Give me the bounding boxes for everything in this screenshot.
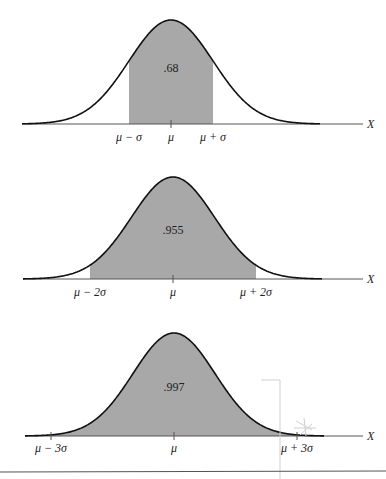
tick-label: μ + 3σ	[280, 441, 314, 455]
x-axis-label: X	[366, 272, 375, 286]
probability-label: .997	[164, 380, 185, 394]
normal-curve-chart-2: Xμ − 2σμμ + 2σ.955	[23, 177, 375, 299]
x-axis-label: X	[366, 117, 375, 131]
probability-label: .955	[163, 223, 184, 237]
x-axis-label: X	[366, 429, 375, 443]
tick-label: μ + 2σ	[239, 285, 273, 299]
tick-label: μ − 2σ	[73, 285, 107, 299]
tick-label: μ	[170, 441, 177, 455]
normal-curve-chart-3: Xμ − 3σμμ + 3σ.997	[25, 333, 375, 455]
tick-label: μ	[167, 130, 174, 144]
tick-label: μ − 3σ	[34, 441, 68, 455]
normal-distribution-figure: Xμ − σμμ + σ.68Xμ − 2σμμ + 2σ.955Xμ − 3σ…	[0, 0, 386, 479]
tick-label: μ	[169, 285, 176, 299]
normal-curve-chart-1: Xμ − σμμ + σ.68	[22, 20, 375, 144]
bottom-rule	[0, 471, 386, 472]
probability-label: .68	[164, 61, 179, 75]
tick-label: μ − σ	[115, 130, 143, 144]
tick-label: μ + σ	[199, 130, 227, 144]
